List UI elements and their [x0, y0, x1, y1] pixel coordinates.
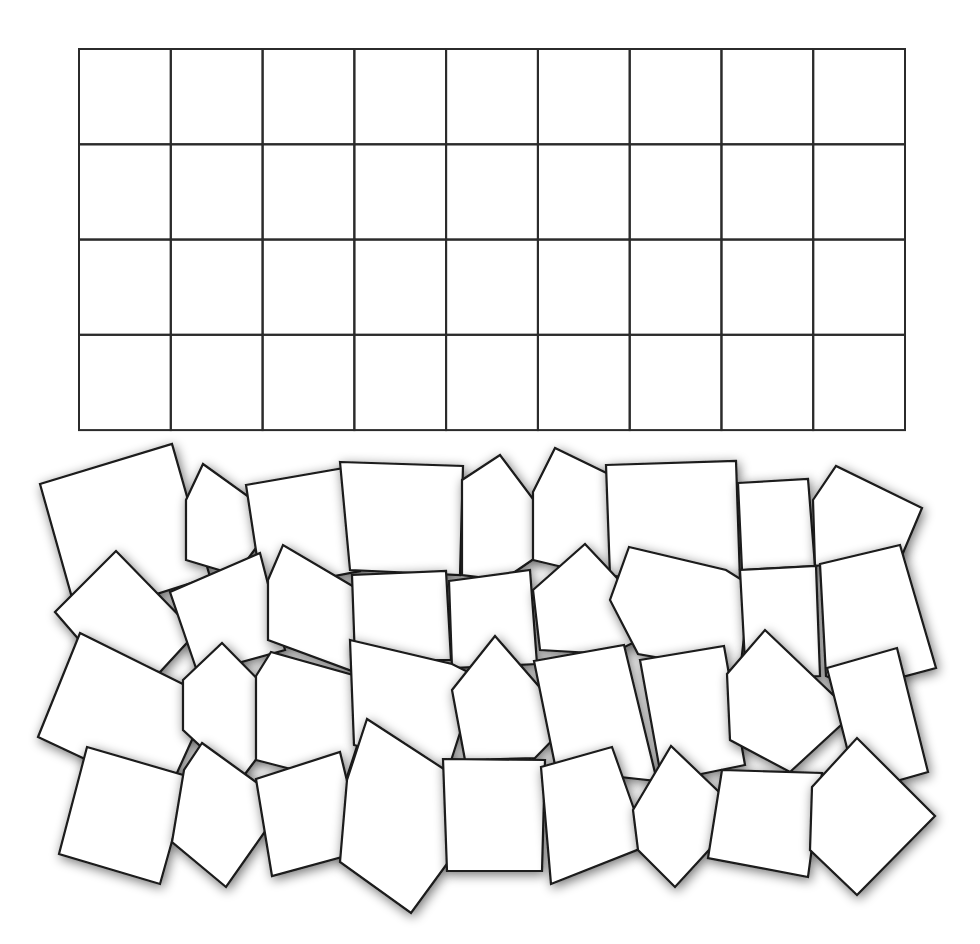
- grid-cell: [721, 144, 813, 239]
- scattered-tile: [813, 466, 922, 566]
- grid-cell: [630, 49, 722, 144]
- grid-cell: [538, 240, 630, 335]
- grid-cell: [630, 240, 722, 335]
- grid-cell: [171, 144, 263, 239]
- grid-cell: [721, 335, 813, 430]
- grid-cell: [79, 240, 171, 335]
- grid-cell: [721, 240, 813, 335]
- grid-cell: [538, 335, 630, 430]
- grid-cell: [538, 144, 630, 239]
- grid-cell: [538, 49, 630, 144]
- grid-cell: [446, 144, 538, 239]
- grid-cell: [354, 240, 446, 335]
- grid-cell: [446, 240, 538, 335]
- grid-cell: [263, 335, 355, 430]
- grid-cell: [813, 144, 905, 239]
- grid-cell: [354, 49, 446, 144]
- grid-cell: [354, 144, 446, 239]
- grid-cell: [813, 49, 905, 144]
- grid-cell: [354, 335, 446, 430]
- scattered-tiles-pile: [38, 444, 936, 913]
- grid-cell: [813, 240, 905, 335]
- empty-grid-9x4: [79, 49, 905, 430]
- grid-cell: [263, 144, 355, 239]
- grid-cell: [263, 240, 355, 335]
- grid-cell: [630, 144, 722, 239]
- grid-cell: [446, 335, 538, 430]
- grid-cell: [79, 49, 171, 144]
- grid-cell: [630, 335, 722, 430]
- grid-cell: [263, 49, 355, 144]
- scattered-tile: [708, 770, 822, 877]
- illustration-canvas: [0, 0, 980, 944]
- grid-cell: [721, 49, 813, 144]
- figure-grid-and-scattered-tiles: [0, 0, 980, 944]
- grid-cell: [79, 335, 171, 430]
- scattered-tile: [443, 759, 545, 871]
- grid-cell: [171, 335, 263, 430]
- grid-cell: [171, 240, 263, 335]
- grid-cell: [813, 335, 905, 430]
- scattered-tile: [340, 462, 463, 575]
- grid-cell: [79, 144, 171, 239]
- scattered-tile: [738, 479, 815, 570]
- grid-cell: [171, 49, 263, 144]
- grid-cell: [446, 49, 538, 144]
